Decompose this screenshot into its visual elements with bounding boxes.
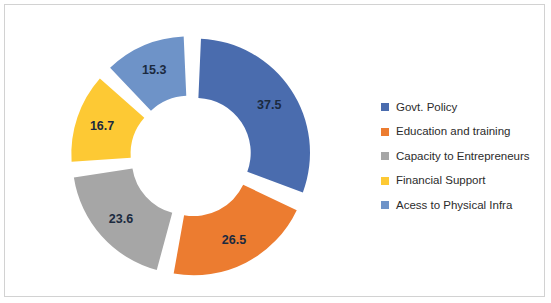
legend-item[interactable]: Capacity to Entrepreneurs xyxy=(381,144,541,169)
legend-item[interactable]: Education and training xyxy=(381,120,541,145)
doughnut-data-label: 23.6 xyxy=(109,212,133,226)
doughnut-chart-svg: 37.526.523.616.715.3 xyxy=(5,5,375,296)
legend-color-swatch xyxy=(381,177,389,185)
legend-item-label: Capacity to Entrepreneurs xyxy=(396,151,530,163)
doughnut-slice[interactable] xyxy=(198,39,310,193)
doughnut-chart-plot-area: 37.526.523.616.715.3 xyxy=(5,5,375,296)
doughnut-data-label: 15.3 xyxy=(142,63,166,77)
legend-item[interactable]: Acess to Physical Infra xyxy=(381,193,541,218)
legend-item[interactable]: Govt. Policy xyxy=(381,95,541,120)
legend-item-label: Govt. Policy xyxy=(396,102,457,114)
legend-color-swatch xyxy=(381,152,389,160)
doughnut-data-label: 26.5 xyxy=(222,233,246,247)
doughnut-data-label: 16.7 xyxy=(90,119,114,133)
chart-legend: Govt. PolicyEducation and trainingCapaci… xyxy=(381,95,541,218)
legend-color-swatch xyxy=(381,201,389,209)
doughnut-data-label: 37.5 xyxy=(257,98,281,112)
legend-color-swatch xyxy=(381,103,389,111)
chart-frame: 37.526.523.616.715.3 Govt. PolicyEducati… xyxy=(4,4,545,297)
legend-color-swatch xyxy=(381,128,389,136)
doughnut-slice-group xyxy=(71,37,310,276)
legend-item[interactable]: Financial Support xyxy=(381,169,541,194)
legend-item-label: Acess to Physical Infra xyxy=(396,200,512,212)
doughnut-slice[interactable] xyxy=(174,185,297,276)
legend-item-label: Financial Support xyxy=(396,175,486,187)
legend-item-label: Education and training xyxy=(396,126,510,138)
